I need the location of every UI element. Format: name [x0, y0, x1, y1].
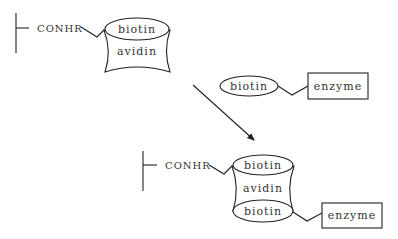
linker-label: CONHR: [37, 23, 83, 34]
top-complex: CONHR biotin avidin: [16, 13, 170, 72]
avidin-label: avidin: [117, 45, 157, 58]
enzyme-label: enzyme: [314, 80, 363, 93]
biotin-top-label: biotin: [244, 159, 282, 172]
linker-connector: [81, 27, 104, 37]
biotin-label: biotin: [118, 23, 156, 36]
reagent-connector: [278, 86, 308, 95]
enzyme-connector: [293, 212, 322, 221]
biotin-bottom-label: biotin: [244, 205, 282, 218]
linker-label: CONHR: [165, 160, 211, 171]
biotin-enzyme-reagent: biotin enzyme: [220, 73, 368, 99]
enzyme-label: enzyme: [328, 209, 377, 222]
biotin-label: biotin: [230, 80, 268, 93]
avidin-label: avidin: [243, 182, 283, 195]
linker-connector: [209, 165, 232, 174]
diagram-canvas: CONHR biotin avidin biotin enzyme CONHR …: [0, 0, 398, 239]
bottom-complex: CONHR biotin avidin biotin enzyme: [143, 151, 382, 228]
